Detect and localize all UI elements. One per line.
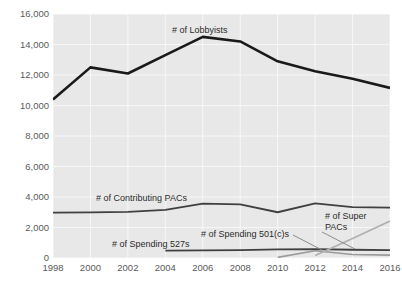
x-axis: 1998200020022004200620082010201220142016 — [53, 262, 390, 280]
annotation-leader-line — [322, 232, 355, 249]
x-axis-tick-label: 1998 — [42, 262, 63, 273]
series-annotation-label: # of Spending 501(c)s — [201, 229, 289, 240]
y-axis-tick-label: 2,000 — [0, 223, 49, 233]
series-annotation-label: # of Contributing PACs — [96, 193, 187, 204]
series-annotation-label: # of Lobbyists — [172, 25, 228, 36]
series-annotation-label: # of Spending 527s — [112, 239, 190, 250]
y-axis-tick-label: 6,000 — [0, 162, 49, 172]
x-axis-tick-label: 2004 — [155, 262, 176, 273]
y-axis-tick-label: 16,000 — [0, 9, 49, 19]
x-axis-tick-label: 2006 — [192, 262, 213, 273]
annotation-leader-line — [293, 235, 322, 250]
y-axis-tick-label: 10,000 — [0, 101, 49, 111]
series-line — [165, 249, 390, 251]
series-annotation-label: # of Super PACs — [325, 211, 385, 233]
y-axis-tick-label: 4,000 — [0, 192, 49, 202]
series-line — [53, 37, 390, 100]
x-axis-tick-label: 2000 — [80, 262, 101, 273]
line-chart: 02,0004,0006,0008,00010,00012,00014,0001… — [0, 0, 402, 282]
x-axis-tick-label: 2002 — [117, 262, 138, 273]
x-axis-tick-label: 2012 — [305, 262, 326, 273]
y-axis-tick-label: 14,000 — [0, 40, 49, 50]
x-axis-tick-label: 2016 — [379, 262, 400, 273]
y-axis-tick-label: 12,000 — [0, 70, 49, 80]
x-axis-tick-label: 2010 — [267, 262, 288, 273]
x-axis-tick-label: 2008 — [230, 262, 251, 273]
y-axis-tick-label: 8,000 — [0, 131, 49, 141]
x-axis-tick-label: 2014 — [342, 262, 363, 273]
y-axis: 02,0004,0006,0008,00010,00012,00014,0001… — [0, 0, 49, 282]
series-line — [278, 251, 390, 258]
